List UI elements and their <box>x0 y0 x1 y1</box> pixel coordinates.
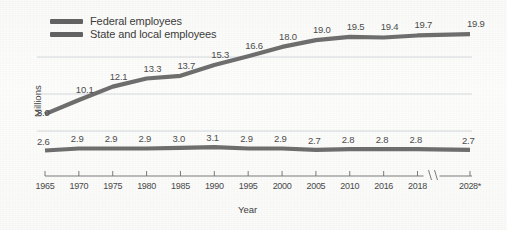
data-label-federal-2016: 2.8 <box>376 135 389 145</box>
data-label-state-local-2005: 19.0 <box>313 25 331 35</box>
x-tick-label-1980: 1980 <box>131 182 163 191</box>
x-axis <box>45 170 472 180</box>
data-label-federal-1965: 2.6 <box>37 137 50 147</box>
legend-swatch-state-local <box>50 32 83 37</box>
data-label-federal-2028: 2.7 <box>462 136 475 146</box>
x-tick-label-1995: 1995 <box>232 182 264 191</box>
data-label-federal-1985: 3.0 <box>172 134 185 144</box>
gridlines <box>37 57 472 131</box>
data-label-state-local-1965: 8.0 <box>37 108 50 118</box>
data-label-state-local-1990: 15.3 <box>211 50 229 60</box>
data-label-state-local-2028: 19.9 <box>467 19 485 29</box>
legend-item-federal[interactable]: Federal employees <box>50 15 182 27</box>
data-label-state-local-2010: 19.5 <box>347 22 365 32</box>
legend-label-state-local: State and local employees <box>90 28 217 40</box>
x-tick-label-2028: 2028* <box>454 182 486 191</box>
x-tick-label-1970: 1970 <box>63 182 95 191</box>
legend-label-federal: Federal employees <box>90 15 182 27</box>
data-label-federal-1995: 2.9 <box>240 134 253 144</box>
x-tick-label-1975: 1975 <box>97 182 129 191</box>
data-label-state-local-2016: 19.4 <box>381 22 399 32</box>
data-label-federal-2010: 2.8 <box>342 135 355 145</box>
x-tick-label-2005: 2005 <box>300 182 332 191</box>
data-label-state-local-1980: 13.3 <box>144 64 162 74</box>
x-tick-label-1965: 1965 <box>29 182 61 191</box>
x-tick-label-2010: 2010 <box>334 182 366 191</box>
data-label-state-local-1985: 13.7 <box>177 61 195 71</box>
x-tick-label-1985: 1985 <box>164 182 196 191</box>
series-line-federal <box>45 147 470 150</box>
data-label-federal-1970: 2.9 <box>71 134 84 144</box>
data-label-state-local-2018: 19.7 <box>415 20 433 30</box>
data-label-federal-2005: 2.7 <box>308 136 321 146</box>
data-label-federal-1980: 2.9 <box>139 134 152 144</box>
data-label-state-local-1995: 16.6 <box>245 41 263 51</box>
employment-line-chart: Federal employees State and local employ… <box>0 0 507 230</box>
data-label-state-local-2000: 18.0 <box>279 32 297 42</box>
legend-swatch-federal <box>50 19 83 24</box>
x-tick-label-1990: 1990 <box>198 182 230 191</box>
data-label-state-local-1970: 10.1 <box>76 85 94 95</box>
data-label-state-local-1975: 12.1 <box>110 72 128 82</box>
x-tick-label-2018: 2018 <box>402 182 434 191</box>
x-axis-title: Year <box>238 205 257 215</box>
x-tick-label-2000: 2000 <box>266 182 298 191</box>
data-label-federal-2018: 2.8 <box>410 135 423 145</box>
x-tick-label-2016: 2016 <box>368 182 400 191</box>
data-label-federal-2000: 2.9 <box>274 134 287 144</box>
axis-break-mark-1 <box>429 170 432 180</box>
data-label-federal-1975: 2.9 <box>105 134 118 144</box>
legend-item-state-local[interactable]: State and local employees <box>50 28 217 40</box>
axis-break-mark-2 <box>435 170 438 180</box>
data-label-federal-1990: 3.1 <box>206 133 219 143</box>
